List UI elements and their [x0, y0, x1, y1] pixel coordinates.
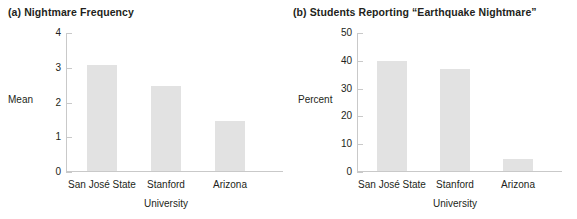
panel-b-y-axis-label: Percent — [298, 95, 332, 105]
panel-b-ytick-label-3: 30 — [341, 84, 352, 94]
panel-b-ytick-4: 40 — [357, 61, 363, 62]
panel-b-ytick-label-1: 10 — [341, 139, 352, 149]
panel-a-category-label-san-jose-state: San José State — [68, 180, 136, 190]
panel-b-ytick-label-2: 20 — [341, 111, 352, 121]
panel-a-ytick-1: 1 — [66, 137, 72, 138]
bar-a-san-jose-state — [87, 65, 117, 171]
panel-a-x-axis-label: University — [144, 199, 188, 209]
panel-a-ytick-3: 3 — [66, 68, 72, 69]
bar-b-arizona — [503, 159, 533, 171]
panel-b-ytick-label-5: 50 — [341, 28, 352, 38]
panel-a-category-label-arizona: Arizona — [213, 180, 247, 190]
panel-b-y-axis-line — [357, 33, 358, 172]
panel-a-plot-area: 0 1 2 3 4 — [66, 33, 271, 172]
figure-two-panel-bar-charts: (a) Nightmare Frequency Mean 0 1 2 3 — [0, 0, 577, 219]
panel-b-category-label-arizona: Arizona — [501, 180, 535, 190]
panel-b-ytick-0: 0 — [357, 172, 363, 173]
panel-a-x-axis-line — [66, 171, 283, 172]
bar-b-stanford — [440, 69, 470, 171]
panel-b-ytick-label-0: 0 — [346, 167, 352, 177]
panel-a-ytick-2: 2 — [66, 103, 72, 104]
panel-b-ytick-label-4: 40 — [341, 56, 352, 66]
panel-a-category-label-stanford: Stanford — [147, 180, 185, 190]
panel-a-ytick-label-1: 1 — [55, 132, 61, 142]
bar-a-stanford — [151, 86, 181, 171]
panel-a-ytick-0: 0 — [66, 172, 72, 173]
panel-b-ytick-5: 50 — [357, 33, 363, 34]
panel-b-title: (b) Students Reporting “Earthquake Night… — [293, 6, 537, 18]
panel-a-ytick-label-0: 0 — [55, 167, 61, 177]
panel-a-ytick-label-2: 2 — [55, 98, 61, 108]
panel-b-ytick-2: 20 — [357, 116, 363, 117]
panel-b-x-axis-line — [357, 171, 562, 172]
panel-a-title: (a) Nightmare Frequency — [8, 6, 134, 18]
panel-a-ytick-label-4: 4 — [55, 28, 61, 38]
panel-b-ytick-3: 30 — [357, 89, 363, 90]
bar-a-arizona — [215, 121, 245, 171]
panel-b-category-label-san-jose-state: San José State — [358, 180, 426, 190]
panel-a-y-axis-label: Mean — [8, 95, 33, 105]
bar-b-san-jose-state — [377, 61, 407, 171]
panel-a-nightmare-frequency: (a) Nightmare Frequency Mean 0 1 2 3 — [0, 0, 288, 219]
panel-b-ytick-1: 10 — [357, 144, 363, 145]
panel-a-ytick-label-3: 3 — [55, 63, 61, 73]
panel-b-category-label-stanford: Stanford — [436, 180, 474, 190]
panel-b-plot-area: 0 10 20 30 40 50 — [357, 33, 555, 172]
panel-a-ytick-4: 4 — [66, 33, 72, 34]
panel-b-x-axis-label: University — [433, 199, 477, 209]
